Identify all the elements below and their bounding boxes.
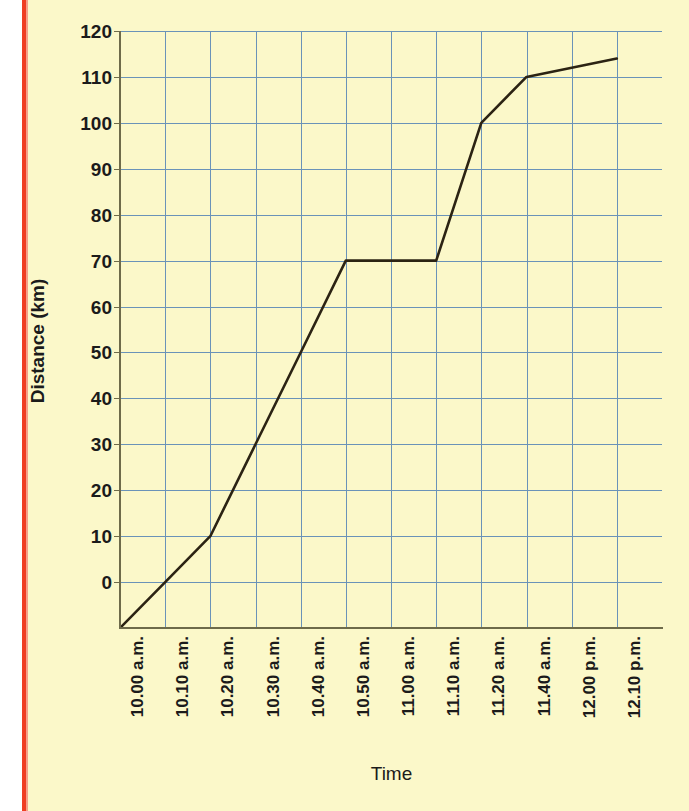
x-tick-label: 10.20 a.m. [218, 636, 238, 766]
x-tick-label: 11.00 a.m. [399, 636, 419, 766]
x-tick-label: 10.50 a.m. [354, 636, 374, 766]
x-tick-label: 11.10 a.m. [444, 636, 464, 766]
x-tick-label: 10.40 a.m. [309, 636, 329, 766]
x-tick-label: 11.40 a.m. [535, 636, 555, 766]
x-tick-label: 10.10 a.m. [173, 636, 193, 766]
x-axis-ticks: 10.00 a.m.10.10 a.m.10.20 a.m.10.30 a.m.… [0, 0, 689, 811]
x-axis-title: Time [120, 763, 663, 785]
x-tick-label: 12.00 p.m. [580, 636, 600, 766]
x-tick-label: 10.00 a.m. [128, 636, 148, 766]
x-tick-label: 11.20 a.m. [489, 636, 509, 766]
x-tick-label: 12.10 p.m. [625, 636, 645, 766]
x-tick-label: 10.30 a.m. [264, 636, 284, 766]
chart-page: Distance (km) 12011010090807060504030201… [0, 0, 689, 811]
